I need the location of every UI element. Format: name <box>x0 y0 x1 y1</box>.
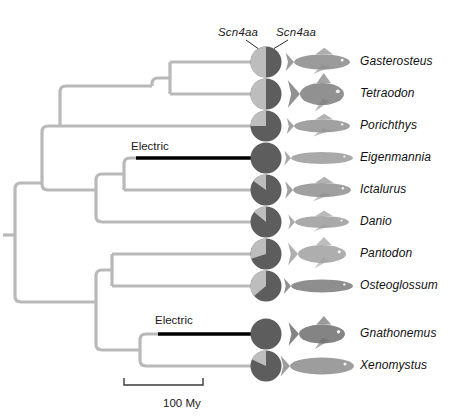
branch-osteoglossomorph-a <box>96 270 112 302</box>
scale-bar-line <box>124 378 203 385</box>
branch-upper-clade-a <box>60 86 152 126</box>
taxon-label-xenomystus: Xenomystus <box>360 358 427 372</box>
fish-illustration-gasterosteus <box>286 48 350 74</box>
pie-chart-eigenmannia <box>251 143 282 174</box>
branch-ostariophysi-a <box>96 174 124 190</box>
pie-light-wedge-porichthys <box>251 111 267 127</box>
pie-light-wedge-gasterosteus <box>250 47 266 78</box>
branch-to-eigenmannia <box>124 158 136 174</box>
taxon-label-eigenmannia: Eigenmannia <box>360 150 431 164</box>
branch-teleost-upper <box>42 126 60 183</box>
branch-root-upper <box>15 183 42 235</box>
scale-bar-label: 100 My <box>163 397 201 409</box>
taxon-label-tetraodon: Tetraodon <box>360 86 415 100</box>
taxon-label-gasterosteus: Gasterosteus <box>360 54 433 68</box>
fish-illustration-osteoglossum <box>284 278 353 294</box>
branch-to-xenomystus <box>140 350 158 366</box>
branch-osteoglossomorph-b <box>96 302 140 350</box>
branch-to-gnathonemus <box>140 334 158 350</box>
electric-label-1: Electric <box>131 140 169 152</box>
tree-branches <box>3 62 252 366</box>
leader-line-left <box>246 40 258 49</box>
fish-illustration-group <box>281 48 354 377</box>
branch-percomorph-a <box>152 78 170 86</box>
pie-chart-gnathonemus <box>251 319 282 350</box>
branch-to-danio <box>96 190 112 222</box>
fish-illustration-danio <box>288 211 349 232</box>
leader-line-right <box>274 40 288 49</box>
taxon-label-porichthys: Porichthys <box>360 118 417 132</box>
pie-light-wedge-tetraodon <box>250 79 266 110</box>
taxon-label-osteoglossum: Osteoglossum <box>360 278 438 292</box>
pie-chart-group <box>250 47 281 382</box>
taxon-label-pantodon: Pantodon <box>360 246 412 260</box>
taxon-label-danio: Danio <box>360 214 392 228</box>
taxon-label-gnathonemus: Gnathonemus <box>360 326 436 340</box>
fish-illustration-porichthys <box>287 114 350 137</box>
electric-label-2: Electric <box>155 314 193 326</box>
fish-illustration-gnathonemus <box>289 316 345 349</box>
gene-label-scn4aa-2: Scn4aa <box>276 26 316 38</box>
branch-root-lower <box>15 235 96 302</box>
scale-bar <box>124 378 203 385</box>
fish-illustration-pantodon <box>288 237 346 269</box>
gene-label-scn4aa-1: Scn4aa <box>218 26 258 38</box>
fish-illustration-tetraodon <box>288 73 344 112</box>
fish-illustration-eigenmannia <box>284 151 353 166</box>
taxon-label-ictalurus: Ictalurus <box>360 182 406 196</box>
phylogenetic-figure: Scn4aaScn4aa ElectricElectric Gasteroste… <box>0 0 452 419</box>
branch-teleost-lower <box>42 183 96 190</box>
fish-illustration-xenomystus <box>281 355 354 376</box>
fish-illustration-ictalurus <box>285 177 351 202</box>
